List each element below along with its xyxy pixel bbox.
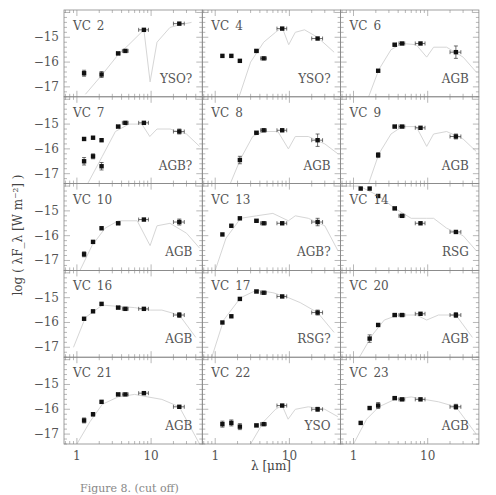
data-point [91, 412, 95, 416]
data-point [315, 36, 319, 40]
data-point [177, 21, 181, 25]
data-point [142, 121, 146, 125]
sed-panel: VC 8AGB [202, 97, 340, 184]
data-point [358, 421, 362, 425]
data-point [454, 50, 458, 54]
panel-name-label: VC 10 [72, 193, 112, 207]
y-tick-labels: −15−16−17−15−16−17−15−16−17−15−16−17−15−… [34, 30, 59, 441]
data-point [116, 124, 120, 128]
data-point [393, 313, 397, 317]
data-point [280, 403, 284, 407]
panel-name-label: VC 2 [72, 19, 104, 33]
data-point [400, 313, 404, 317]
data-point [82, 418, 86, 422]
classification-label: AGB [164, 332, 192, 346]
panel-name-label: VC 23 [349, 366, 389, 380]
data-point [99, 226, 103, 230]
y-tick-label: −16 [34, 402, 59, 416]
model-curve [230, 132, 338, 184]
data-point [280, 294, 284, 298]
data-point [376, 69, 380, 73]
x-tick-label: 10 [420, 449, 435, 463]
panel-name-label: VC 13 [210, 193, 250, 207]
panel-name-label: VC 7 [72, 106, 104, 120]
data-point [82, 252, 86, 256]
data-point [393, 124, 397, 128]
panel-name-label: VC 16 [72, 279, 112, 293]
data-point [454, 230, 458, 234]
data-point [238, 297, 242, 301]
data-point [400, 124, 404, 128]
data-point [280, 128, 284, 132]
model-curve [88, 124, 200, 184]
data-point [376, 153, 380, 157]
classification-label: AGB? [296, 245, 331, 259]
y-tick-label: −17 [34, 340, 59, 354]
y-tick-label: −15 [34, 117, 59, 131]
data-point [393, 206, 397, 210]
data-point [82, 71, 86, 75]
sed-panel: VC 4YSO? [202, 10, 340, 97]
panel-grid: VC 2YSO?VC 4YSO?VC 6AGBVC 7AGB?VC 8AGBVC… [64, 10, 479, 444]
data-point [177, 129, 181, 133]
data-point [254, 219, 258, 223]
classification-label: AGB [441, 159, 469, 173]
data-point [99, 138, 103, 142]
y-tick-label: −16 [34, 229, 59, 243]
panel-name-label: VC 8 [210, 106, 242, 120]
data-point [142, 391, 146, 395]
data-point [238, 424, 242, 428]
model-curve [369, 44, 477, 97]
data-point [254, 423, 258, 427]
y-tick-label: −17 [34, 427, 59, 441]
y-tick-label: −15 [34, 204, 59, 218]
classification-label: AGB [441, 72, 469, 86]
data-point [91, 136, 95, 140]
data-point [261, 128, 265, 132]
data-point [418, 312, 422, 316]
x-tick-label: 1 [350, 449, 358, 463]
data-point [280, 26, 284, 30]
data-point [123, 121, 127, 125]
sed-panel: VC 13AGB? [202, 184, 340, 271]
data-point [254, 289, 258, 293]
data-point [116, 392, 120, 396]
panel-name-label: VC 22 [210, 366, 250, 380]
data-point [99, 164, 103, 168]
data-point [116, 305, 120, 309]
data-point [229, 314, 233, 318]
data-point [116, 221, 120, 225]
data-point [315, 138, 319, 142]
model-curve [239, 27, 334, 96]
data-point [229, 421, 233, 425]
classification-label: AGB [441, 332, 469, 346]
panel-name-label: VC 6 [349, 19, 381, 33]
y-tick-label: −17 [34, 80, 59, 94]
data-point [315, 220, 319, 224]
panel-name-label: VC 4 [210, 19, 243, 33]
data-point [454, 405, 458, 409]
data-point [418, 397, 422, 401]
panel-name-label: VC 14 [349, 193, 389, 207]
panel-name-label: VC 17 [210, 279, 250, 293]
data-point [123, 49, 127, 53]
data-point [367, 406, 371, 410]
sed-panel: VC 7AGB? [64, 97, 202, 184]
data-point [358, 186, 362, 190]
y-tick-label: −15 [34, 377, 59, 391]
data-point [220, 320, 224, 324]
data-point [142, 28, 146, 32]
classification-label: AGB [303, 159, 331, 173]
data-point [261, 56, 265, 60]
data-point [116, 51, 120, 55]
y-tick-label: −15 [34, 291, 59, 305]
data-point [238, 216, 242, 220]
sed-panel: VC 2YSO? [64, 10, 202, 97]
data-point [229, 224, 233, 228]
data-point [261, 291, 265, 295]
sed-panel: VC 17RSG? [202, 270, 340, 357]
data-point [99, 400, 103, 404]
data-point [82, 159, 86, 163]
y-tick-label: −15 [34, 30, 59, 44]
sed-panel: VC 10AGB [64, 184, 202, 271]
